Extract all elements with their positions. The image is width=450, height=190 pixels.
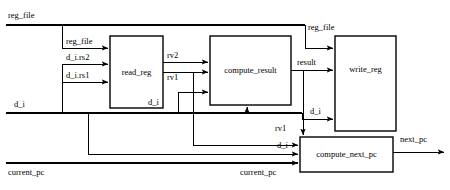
signal-label-next-pc-out: next_pc [400,134,427,144]
block-diagram: read_reg compute_result write_reg comput… [0,0,450,190]
signal-label-current-pc-in: current_pc [8,167,45,177]
block-compute-result-label: compute_result [224,65,277,75]
block-write-reg-label: write_reg [349,64,382,74]
signal-label-d-i-to-compute: d_i [148,97,160,107]
block-write-reg[interactable]: write_reg [335,36,396,131]
signal-label-d-i-to-next-pc: d_i [277,140,289,150]
signal-label-result: result [297,57,317,67]
signal-label-rv1-to-next-pc: rv1 [275,123,286,133]
block-compute-next-pc-label: compute_next_pc [316,149,377,159]
signal-label-d-i-rs1: d_i.rs1 [66,70,89,80]
signal-label-reg-file-to-read: reg_file [66,36,93,46]
signal-label-current-pc-to-next: current_pc [240,167,277,177]
signal-label-reg-file-in: reg_file [8,10,35,20]
block-compute-result[interactable]: compute_result [210,36,291,105]
signal-label-d-i-in: d_i [14,99,26,109]
block-read-reg-label: read_reg [122,67,152,77]
signal-label-d-i-to-write: d_i [310,106,322,116]
block-compute-next-pc[interactable]: compute_next_pc [300,137,393,172]
signal-label-rv1: rv1 [167,72,178,82]
signal-label-reg-file-to-write: reg_file [308,22,335,32]
diagram-canvas: read_reg compute_result write_reg comput… [0,0,450,190]
signal-label-rv2: rv2 [167,50,178,60]
signal-label-d-i-rs2: d_i.rs2 [66,52,89,62]
